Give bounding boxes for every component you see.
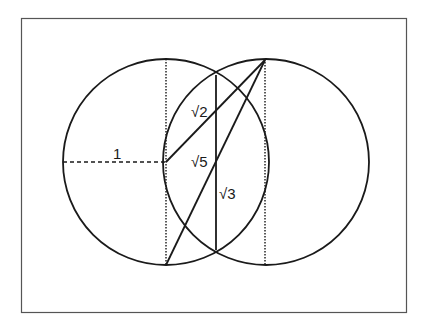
radius-label: 1 [113,145,121,162]
sqrt3-label: √3 [219,185,236,202]
sqrt5-label: √5 [191,153,208,170]
sqrt2-label: √2 [191,103,208,120]
diagram-canvas: 1 √2 √5 √3 [0,0,427,333]
